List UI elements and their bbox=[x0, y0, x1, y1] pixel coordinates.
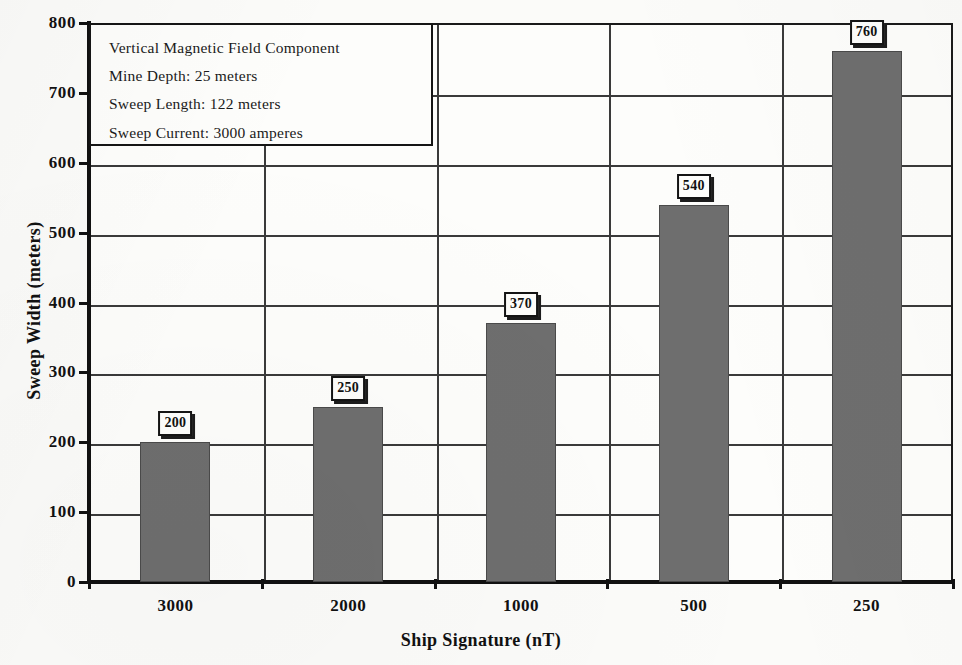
bar bbox=[313, 407, 383, 582]
bar-value-label: 200 bbox=[158, 411, 192, 436]
annotation-box: Vertical Magnetic Field Component Mine D… bbox=[89, 23, 433, 146]
y-tick-mark bbox=[79, 232, 89, 235]
x-tick-mark bbox=[952, 579, 955, 589]
y-tick-mark bbox=[79, 371, 89, 374]
bar-value-label: 250 bbox=[331, 376, 365, 401]
y-tick-mark bbox=[79, 302, 89, 305]
annotation-line-3: Sweep Length: 122 meters bbox=[109, 90, 431, 118]
y-axis-title: Sweep Width (meters) bbox=[24, 146, 45, 476]
annotation-line-2: Mine Depth: 25 meters bbox=[109, 62, 431, 90]
x-tick-label: 3000 bbox=[157, 596, 193, 616]
y-tick-mark bbox=[79, 22, 89, 25]
y-tick-mark bbox=[79, 511, 89, 514]
bar bbox=[832, 51, 902, 582]
gridline-horizontal bbox=[91, 165, 951, 167]
x-tick-mark bbox=[434, 579, 437, 589]
y-tick-label: 0 bbox=[14, 572, 76, 592]
x-tick-mark bbox=[88, 579, 91, 589]
x-tick-mark bbox=[779, 579, 782, 589]
bar bbox=[486, 323, 556, 582]
gridline-vertical bbox=[782, 25, 784, 580]
gridline-horizontal bbox=[91, 235, 951, 237]
bar-value-label: 760 bbox=[850, 20, 884, 45]
y-tick-label: 100 bbox=[14, 502, 76, 522]
y-tick-mark bbox=[79, 441, 89, 444]
gridline-vertical bbox=[437, 25, 439, 580]
y-tick-label: 800 bbox=[14, 13, 76, 33]
x-axis-title: Ship Signature (nT) bbox=[0, 630, 962, 651]
x-tick-label: 2000 bbox=[330, 596, 366, 616]
y-tick-label: 700 bbox=[14, 83, 76, 103]
x-tick-label: 1000 bbox=[503, 596, 539, 616]
annotation-line-1: Vertical Magnetic Field Component bbox=[109, 34, 431, 62]
gridline-vertical bbox=[609, 25, 611, 580]
bar-value-label: 540 bbox=[677, 174, 711, 199]
annotation-line-4: Sweep Current: 3000 amperes bbox=[109, 119, 431, 147]
bar bbox=[140, 442, 210, 582]
x-tick-mark bbox=[606, 579, 609, 589]
x-tick-label: 250 bbox=[853, 596, 880, 616]
y-tick-mark bbox=[79, 92, 89, 95]
x-tick-mark bbox=[261, 579, 264, 589]
y-tick-mark bbox=[79, 162, 89, 165]
bar-value-label: 370 bbox=[504, 292, 538, 317]
chart-page: 200250370540760 010020030040050060070080… bbox=[0, 0, 962, 665]
x-tick-label: 500 bbox=[680, 596, 707, 616]
bar bbox=[659, 205, 729, 582]
